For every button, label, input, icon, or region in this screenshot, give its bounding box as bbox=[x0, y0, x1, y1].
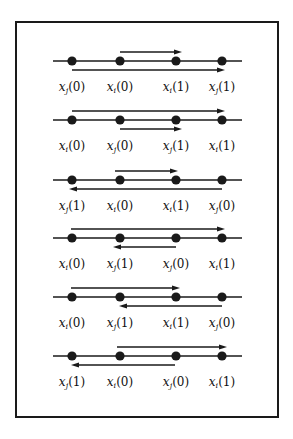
point-dot bbox=[67, 233, 76, 242]
arrow-right-icon bbox=[174, 126, 182, 131]
point-dot bbox=[67, 175, 76, 184]
point-label: xi(1) bbox=[163, 199, 189, 214]
arrow-right-icon bbox=[217, 226, 225, 231]
interval-configurations-diagram: xj(0)xi(0)xi(1)xj(1)xi(0)xj(0)xj(1)xi(1)… bbox=[0, 0, 293, 439]
point-dot bbox=[115, 233, 124, 242]
point-dot bbox=[217, 233, 226, 242]
point-label: xj(1) bbox=[209, 80, 235, 95]
point-dot bbox=[217, 351, 226, 360]
point-label: xi(1) bbox=[163, 80, 189, 95]
arrow-left-icon bbox=[71, 362, 79, 367]
point-label: xi(0) bbox=[107, 80, 133, 95]
point-label: xj(1) bbox=[59, 199, 85, 214]
point-dot bbox=[115, 292, 124, 301]
point-dot bbox=[217, 175, 226, 184]
point-dot bbox=[67, 56, 76, 65]
point-label: xi(1) bbox=[209, 375, 235, 390]
point-label: xi(1) bbox=[209, 139, 235, 154]
configuration-row: xj(1)xi(0)xi(1)xj(0) bbox=[53, 168, 242, 214]
point-dot bbox=[217, 115, 226, 124]
point-dot bbox=[115, 115, 124, 124]
point-dot bbox=[171, 175, 180, 184]
point-dot bbox=[217, 56, 226, 65]
configuration-row: xj(1)xi(0)xj(0)xi(1) bbox=[53, 344, 242, 390]
point-label: xj(1) bbox=[163, 139, 189, 154]
arrow-right-icon bbox=[217, 67, 225, 72]
configuration-row: xj(0)xi(0)xi(1)xj(1) bbox=[53, 49, 242, 95]
point-label: xj(0) bbox=[163, 257, 189, 272]
point-dot bbox=[171, 351, 180, 360]
point-label: xj(1) bbox=[107, 316, 133, 331]
point-label: xj(1) bbox=[59, 375, 85, 390]
point-dot bbox=[171, 292, 180, 301]
point-label: xj(0) bbox=[163, 375, 189, 390]
point-dot bbox=[171, 115, 180, 124]
point-label: xi(0) bbox=[107, 199, 133, 214]
point-label: xi(1) bbox=[163, 316, 189, 331]
arrow-right-icon bbox=[170, 168, 178, 173]
point-label: xi(1) bbox=[209, 257, 235, 272]
point-label: xj(0) bbox=[59, 80, 85, 95]
point-dot bbox=[67, 292, 76, 301]
point-dot bbox=[171, 233, 180, 242]
arrow-right-icon bbox=[172, 285, 180, 290]
configuration-row: xi(0)xj(0)xj(1)xi(1) bbox=[53, 108, 242, 154]
point-label: xi(0) bbox=[59, 316, 85, 331]
point-label: xi(0) bbox=[107, 375, 133, 390]
point-dot bbox=[115, 56, 124, 65]
arrow-left-icon bbox=[113, 244, 121, 249]
point-label: xi(0) bbox=[59, 139, 85, 154]
point-label: xi(0) bbox=[59, 257, 85, 272]
point-label: xj(0) bbox=[107, 139, 133, 154]
arrow-right-icon bbox=[174, 49, 182, 54]
arrow-left-icon bbox=[119, 303, 127, 308]
arrow-right-icon bbox=[217, 108, 225, 113]
configuration-row: xi(0)xj(1)xi(1)xj(0) bbox=[53, 285, 242, 331]
point-label: xj(0) bbox=[209, 199, 235, 214]
point-dot bbox=[67, 115, 76, 124]
point-label: xj(1) bbox=[107, 257, 133, 272]
configuration-row: xi(0)xj(1)xj(0)xi(1) bbox=[53, 226, 242, 272]
point-dot bbox=[171, 56, 180, 65]
point-label: xj(0) bbox=[209, 316, 235, 331]
point-dot bbox=[115, 175, 124, 184]
arrow-right-icon bbox=[219, 344, 227, 349]
point-dot bbox=[217, 292, 226, 301]
arrow-left-icon bbox=[69, 186, 77, 191]
point-dot bbox=[115, 351, 124, 360]
point-dot bbox=[67, 351, 76, 360]
